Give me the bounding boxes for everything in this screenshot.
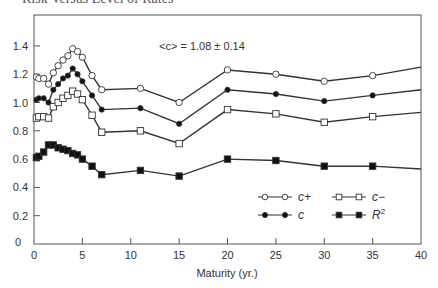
y-tick-label: 0 xyxy=(15,236,21,248)
y-tick-label: 0.8 xyxy=(13,125,28,137)
marker-open-square xyxy=(79,96,85,102)
marker-open-circle xyxy=(321,78,327,84)
marker-filled-circle xyxy=(282,212,287,217)
y-tick-label: 0.6 xyxy=(13,153,28,165)
x-tick-label: 35 xyxy=(367,249,379,261)
marker-open-circle xyxy=(45,81,51,87)
marker-open-circle xyxy=(50,70,56,76)
marker-filled-circle xyxy=(89,93,94,98)
marker-open-square xyxy=(273,111,279,117)
marker-open-circle xyxy=(74,48,80,54)
y-tick-label: 0.2 xyxy=(13,210,28,222)
marker-filled-circle xyxy=(56,82,61,87)
x-tick-label: 0 xyxy=(31,249,37,261)
marker-open-circle xyxy=(65,53,71,59)
marker-open-circle xyxy=(40,75,46,81)
legend: c+c−cR2 xyxy=(258,190,386,222)
marker-filled-circle xyxy=(322,98,327,103)
legend-item: c+ xyxy=(258,190,311,204)
line-chart: 00.20.40.60.81.01.21.40510152025303540 <… xyxy=(0,0,438,288)
marker-open-square xyxy=(356,194,362,200)
marker-filled-square xyxy=(336,212,342,218)
marker-filled-square xyxy=(224,156,230,162)
marker-open-square xyxy=(321,119,327,125)
marker-filled-circle xyxy=(51,87,56,92)
marker-filled-circle xyxy=(70,66,75,71)
marker-filled-circle xyxy=(80,79,85,84)
legend-label: c xyxy=(298,208,304,222)
marker-filled-square xyxy=(89,163,95,169)
legend-item: c xyxy=(258,208,304,222)
marker-filled-circle xyxy=(370,93,375,98)
marker-filled-circle xyxy=(262,212,267,217)
marker-filled-circle xyxy=(225,87,230,92)
marker-filled-circle xyxy=(138,106,143,111)
x-tick-label: 10 xyxy=(125,249,137,261)
marker-open-circle xyxy=(55,63,61,69)
x-tick-label: 25 xyxy=(270,249,282,261)
mean-c-annotation: <c> = 1.08 ± 0.14 xyxy=(159,40,245,52)
series-3 xyxy=(33,142,421,180)
marker-open-square xyxy=(176,140,182,146)
marker-filled-square xyxy=(99,171,105,177)
marker-open-circle xyxy=(176,99,182,105)
x-tick-label: 30 xyxy=(318,249,330,261)
marker-open-circle xyxy=(262,194,268,200)
marker-open-square xyxy=(224,106,230,112)
x-tick-label: 5 xyxy=(79,249,85,261)
marker-open-square xyxy=(89,112,95,118)
marker-open-circle xyxy=(282,194,288,200)
marker-filled-circle xyxy=(41,96,46,101)
marker-open-square xyxy=(137,128,143,134)
marker-open-circle xyxy=(137,85,143,91)
y-tick-label: 0.4 xyxy=(13,181,28,193)
marker-open-circle xyxy=(79,54,85,60)
marker-open-circle xyxy=(224,67,230,73)
marker-filled-square xyxy=(176,173,182,179)
y-tick-label: 1.4 xyxy=(13,40,28,52)
marker-filled-circle xyxy=(99,107,104,112)
marker-open-circle xyxy=(369,72,375,78)
marker-filled-square xyxy=(137,167,143,173)
marker-open-square xyxy=(336,194,342,200)
marker-open-square xyxy=(45,115,51,121)
marker-filled-circle xyxy=(75,72,80,77)
marker-filled-square xyxy=(321,163,327,169)
marker-filled-circle xyxy=(177,121,182,126)
legend-item: c− xyxy=(332,190,385,204)
y-tick-label: 1.2 xyxy=(13,68,28,80)
marker-filled-square xyxy=(356,212,362,218)
legend-label: R2 xyxy=(372,207,386,222)
legend-item: R2 xyxy=(332,207,386,222)
marker-filled-square xyxy=(79,156,85,162)
marker-open-circle xyxy=(89,72,95,78)
marker-filled-square xyxy=(369,163,375,169)
marker-open-circle xyxy=(273,71,279,77)
marker-open-circle xyxy=(99,87,105,93)
series-group xyxy=(33,46,421,180)
y-tick-label: 1.0 xyxy=(13,97,28,109)
marker-filled-circle xyxy=(273,91,278,96)
marker-filled-circle xyxy=(65,73,70,78)
marker-open-square xyxy=(99,129,105,135)
legend-label: c− xyxy=(372,190,385,204)
x-tick-label: 15 xyxy=(173,249,185,261)
marker-filled-square xyxy=(273,157,279,163)
legend-label: c+ xyxy=(298,190,311,204)
marker-filled-circle xyxy=(60,76,65,81)
marker-filled-square xyxy=(40,149,46,155)
x-tick-label: 20 xyxy=(221,249,233,261)
x-axis-label: Maturity (yr.) xyxy=(196,267,257,279)
x-tick-label: 40 xyxy=(415,249,427,261)
marker-open-square xyxy=(369,113,375,119)
